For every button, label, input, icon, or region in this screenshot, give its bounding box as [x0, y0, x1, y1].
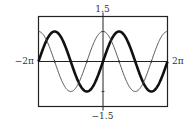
y-min-label: −1.5 — [92, 111, 114, 121]
chart: −2π 2π 1.5 −1.5 — [0, 0, 192, 121]
x-max-label: 2π — [172, 56, 184, 66]
x-min-label: −2π — [15, 56, 34, 66]
y-max-label: 1.5 — [95, 4, 110, 14]
